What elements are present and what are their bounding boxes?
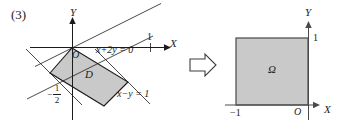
x-axis-arrowhead-right — [313, 102, 320, 108]
x-axis-label-right: X — [324, 104, 331, 115]
fraction-numerator: 1 — [54, 84, 61, 94]
y-axis-arrowhead-left — [69, 17, 75, 24]
line-equation-label-2: x−y = 1 — [117, 89, 149, 99]
y-axis-label-right: Y — [305, 7, 311, 18]
x-tick-label-one-left: 1 — [147, 32, 152, 42]
origin-label-right: O — [294, 107, 301, 117]
y-tick-label-minus-one-half: − 1 2 — [47, 84, 61, 105]
line-equation-label-1: x+2y = 0 — [96, 45, 133, 55]
x-tick-label-minus-one-right: −1 — [230, 108, 241, 118]
y-tick-label-one-right: 1 — [313, 33, 318, 43]
y-axis-label-left: Y — [70, 7, 76, 18]
maps-to-arrow — [190, 54, 216, 76]
region-label-D: D — [85, 69, 93, 80]
line-x-plus-2y-eq-0 — [35, 4, 161, 67]
figure-canvas — [0, 0, 342, 135]
minus-sign: − — [47, 90, 52, 99]
fraction-denominator: 2 — [54, 95, 61, 105]
maps-to-arrow-shape — [190, 54, 216, 76]
y-axis-arrowhead-right — [305, 21, 311, 28]
origin-label-left: O — [72, 50, 79, 60]
x-axis-label-left: X — [170, 38, 177, 49]
problem-number: (3) — [11, 8, 26, 21]
region-label-omega: Ω — [268, 64, 276, 75]
fraction: 1 2 — [53, 84, 61, 105]
